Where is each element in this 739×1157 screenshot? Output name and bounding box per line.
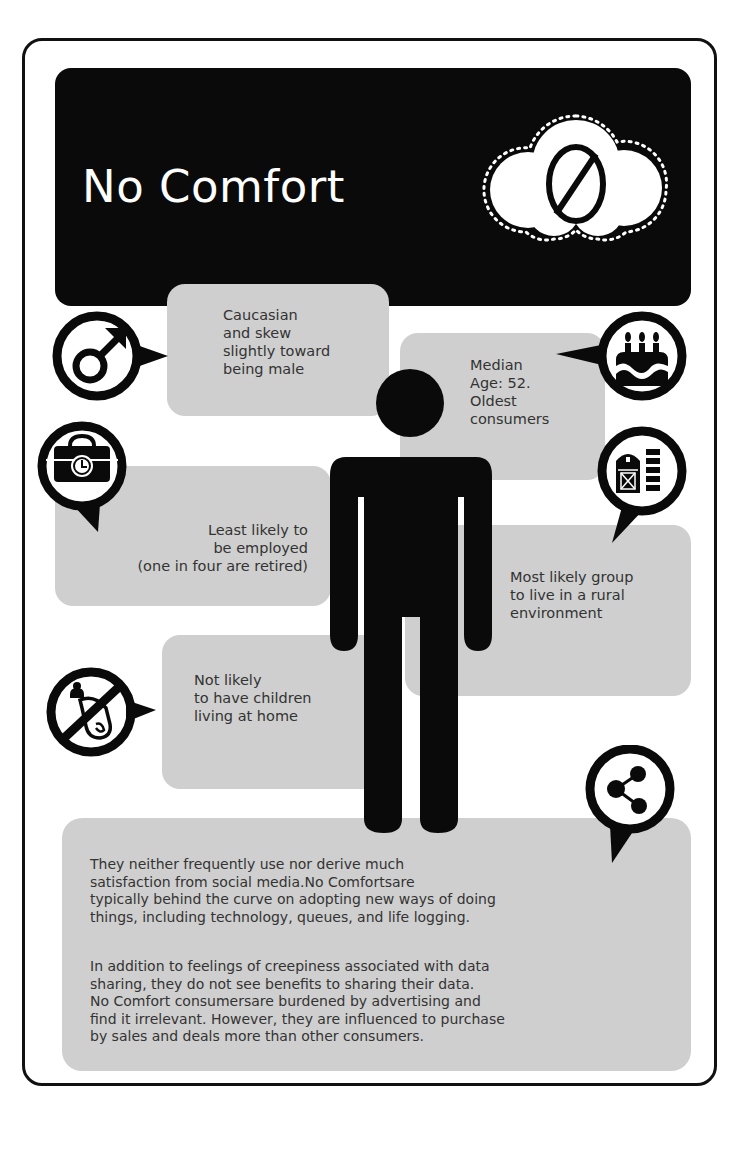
barn-silo-icon (594, 425, 694, 555)
page-title: No Comfort (82, 160, 345, 213)
location-fact-text: Most likely group to live in a rural env… (510, 568, 633, 622)
gender-fact-text: Caucasian and skew slightly toward being… (223, 306, 330, 378)
age-fact-text: Median Age: 52. Oldest consumers (470, 356, 549, 428)
cloud-prohibited-icon (478, 112, 670, 242)
person-silhouette-icon (326, 367, 496, 835)
children-fact-text: Not likely to have children living at ho… (194, 671, 312, 725)
birthday-cake-icon (552, 310, 692, 410)
no-baby-bottle-icon (44, 664, 184, 764)
male-symbol-icon (50, 306, 190, 406)
employment-fact-text: Least likely to be employed (one in four… (78, 521, 308, 575)
summary-paragraph-social: They neither frequently use nor derive m… (90, 856, 670, 926)
summary-paragraph-data-sharing: In addition to feelings of creepiness as… (90, 958, 670, 1046)
